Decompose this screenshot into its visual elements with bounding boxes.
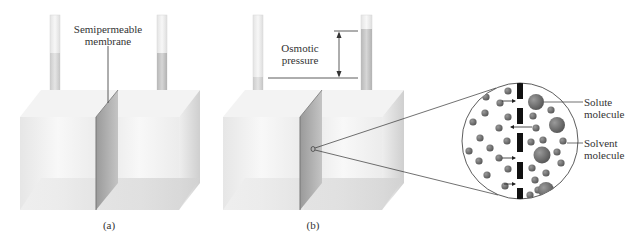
- pressure-label-line2: pressure: [282, 54, 319, 66]
- caption-b: (b): [307, 219, 320, 232]
- arrow-down-head-icon: [337, 71, 342, 78]
- solute-label-line2: molecule: [584, 108, 624, 120]
- panel-b: Osmotic pressure (b): [223, 15, 404, 232]
- membrane-label-line1: Semipermeable: [74, 23, 143, 35]
- solvent-label-line1: Solvent: [584, 137, 618, 149]
- membrane-label-line2: membrane: [85, 35, 132, 47]
- panel-a: Semipermeable membrane (a): [20, 15, 200, 232]
- osmosis-diagram: Semipermeable membrane (a) Osmotic press…: [0, 0, 641, 239]
- caption-a: (a): [103, 219, 116, 232]
- solvent-label-line2: molecule: [584, 149, 624, 161]
- arrow-up-head-icon: [337, 32, 342, 39]
- pressure-label-line1: Osmotic: [281, 42, 318, 54]
- solute-label-line1: Solute: [584, 96, 612, 108]
